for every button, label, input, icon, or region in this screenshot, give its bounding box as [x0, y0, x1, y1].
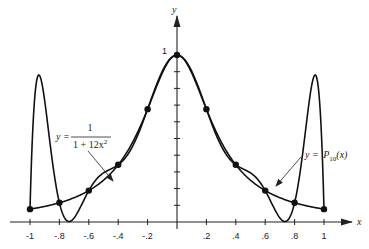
- annotation-poly-arg: (x): [336, 149, 348, 161]
- x-tick-label: -1: [26, 231, 34, 241]
- interpolation-node: [174, 52, 180, 58]
- x-tick-label: -.4: [113, 231, 124, 241]
- interpolation-node: [27, 206, 33, 212]
- annotation-runge-numerator: 1: [88, 122, 93, 133]
- annotation-poly-func: P: [322, 149, 329, 160]
- svg-text:1 + 12x2: 1 + 12x2: [73, 138, 108, 150]
- annotation-runge-exponent: 2: [104, 138, 108, 146]
- annotation-runge-prefix: y =: [55, 131, 70, 142]
- x-tick-label: -.8: [54, 231, 65, 241]
- interpolation-node: [321, 206, 327, 212]
- x-tick-label: .4: [232, 231, 240, 241]
- annotation-poly-prefix: y =: [304, 149, 319, 160]
- interpolation-node: [262, 187, 268, 193]
- svg-text:y =: y =: [55, 131, 70, 142]
- interpolation-node: [56, 200, 62, 206]
- annotation-poly-arrow: [276, 157, 301, 186]
- y-tick-label: 1: [162, 46, 167, 56]
- axes: x y: [10, 4, 362, 229]
- interpolation-node: [203, 106, 209, 112]
- x-tick-label: .6: [261, 231, 269, 241]
- svg-text:y = P10(x): y = P10(x): [304, 149, 348, 163]
- x-tick-label: 1: [321, 231, 326, 241]
- interpolation-node: [233, 162, 239, 168]
- annotation-runge-denominator: 1 + 12x: [73, 139, 104, 150]
- annotation-runge-arrow: [88, 151, 113, 181]
- interpolation-node: [86, 187, 92, 193]
- interpolation-node: [144, 106, 150, 112]
- annotation-polynomial: y = P10(x): [276, 149, 348, 186]
- x-tick-label: -.6: [84, 231, 95, 241]
- x-tick-label: .8: [291, 231, 299, 241]
- x-tick-label: -.2: [142, 231, 153, 241]
- y-axis-label: y: [171, 4, 177, 15]
- interpolation-node: [115, 162, 121, 168]
- x-axis-label: x: [356, 216, 362, 227]
- interpolation-node: [291, 200, 297, 206]
- x-tick-label: .2: [203, 231, 211, 241]
- chart: x y -1-.8-.6-.4-.2.2.4.6.81 1 y = 1 1 + …: [0, 0, 369, 249]
